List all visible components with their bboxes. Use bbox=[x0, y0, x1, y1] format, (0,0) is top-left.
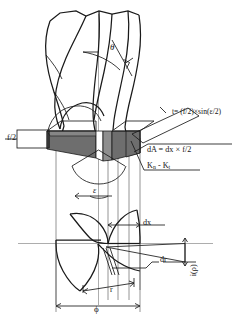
feed-half-label: f/2 bbox=[7, 134, 16, 142]
chip-thickness-formula-label: t= (f/2)×sin(ε/2) bbox=[172, 108, 221, 116]
radius-label: r bbox=[110, 286, 113, 294]
r-dimension bbox=[83, 278, 134, 294]
dr-label: dr bbox=[160, 256, 167, 264]
chip-area-formula-label: dA = dx × f/2 bbox=[147, 146, 191, 154]
drill-body-3d bbox=[46, 11, 141, 134]
diameter-label: ϕ bbox=[94, 305, 99, 314]
drill-geometry-illustration: .s { fill:none; stroke:#1a1a1a; stroke-w… bbox=[0, 0, 241, 322]
helix-angle-indicator bbox=[83, 40, 133, 76]
diameter-dimension bbox=[56, 243, 140, 312]
point-angle-label: ε bbox=[93, 187, 96, 195]
chip-element-block bbox=[47, 121, 154, 161]
force-components-label: Kn - Kt bbox=[147, 162, 170, 171]
inclination-label: i(ρ) bbox=[190, 264, 198, 276]
diagram-canvas: .s { fill:none; stroke:#1a1a1a; stroke-w… bbox=[0, 0, 241, 322]
drill-point-view bbox=[56, 210, 140, 291]
force-tangential-sub: t bbox=[169, 164, 171, 170]
dx-label: dx bbox=[143, 219, 151, 227]
force-sep: - K bbox=[156, 161, 169, 170]
helix-angle-label: θ bbox=[110, 43, 114, 52]
